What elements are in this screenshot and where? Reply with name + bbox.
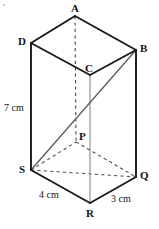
edge-C-D	[31, 43, 90, 75]
edge-A-B	[75, 16, 136, 50]
edge-S-P	[31, 142, 76, 170]
dimension-label-base-depth: 3 cm	[111, 194, 131, 204]
edge-P-Q	[76, 142, 136, 177]
vertex-label-A: A	[71, 3, 79, 14]
vertex-label-B: B	[140, 43, 147, 54]
vertex-label-P: P	[79, 131, 86, 142]
diagonal-B-S	[31, 50, 136, 170]
vertex-label-D: D	[18, 36, 26, 47]
vertex-label-S: S	[19, 164, 25, 175]
geometry-figure-canvas: A B C D P Q R S 7 cm 4 cm 3 cm	[0, 0, 159, 229]
interior-edges-group	[31, 50, 136, 203]
edge-A-P	[75, 16, 76, 142]
vertex-label-Q: Q	[140, 170, 149, 181]
vertex-label-C: C	[85, 63, 93, 74]
dimension-label-height: 7 cm	[4, 103, 24, 113]
vertex-label-R: R	[86, 208, 94, 219]
dimension-label-base-width: 4 cm	[39, 190, 59, 200]
scan-speck-artifact	[3, 4, 5, 6]
diagonal-S-Q	[31, 170, 136, 177]
edge-B-C	[90, 50, 136, 75]
edge-D-A	[31, 16, 75, 43]
